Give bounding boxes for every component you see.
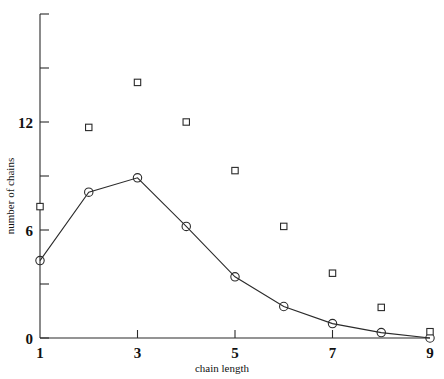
chart-figure: 0612 13579 chain length number of chains <box>0 0 444 379</box>
x-axis-title: chain length <box>195 362 250 374</box>
data-point-square <box>281 223 287 229</box>
x-axis-tick-label: 1 <box>36 345 44 361</box>
x-axis-tick-label: 3 <box>134 345 142 361</box>
series-polyline-group <box>40 178 430 338</box>
data-point-square <box>134 79 140 85</box>
data-point-square <box>378 304 384 310</box>
x-axis-tick-label: 5 <box>231 345 239 361</box>
data-point-square <box>183 119 189 125</box>
data-point-square <box>427 329 433 335</box>
y-axis-tick-label: 0 <box>26 331 34 347</box>
x-axis-tick-label: 9 <box>426 345 434 361</box>
chart-plot-area: 0612 13579 chain length number of chains <box>0 0 444 379</box>
series-marker-group <box>36 79 434 342</box>
y-axis-tick-label: 12 <box>18 115 33 131</box>
y-axis-tick-label: 6 <box>26 223 34 239</box>
x-axis-tick-labels: 13579 <box>36 345 434 361</box>
x-axis-ticks <box>138 330 333 338</box>
data-point-square <box>37 203 43 209</box>
y-axis-title: number of chains <box>4 158 16 234</box>
y-axis-tick-labels: 0612 <box>18 115 34 347</box>
x-axis-tick-label: 7 <box>329 345 337 361</box>
series-line-circles <box>40 178 430 338</box>
data-point-square <box>86 124 92 130</box>
data-point-square <box>329 270 335 276</box>
data-point-square <box>232 167 238 173</box>
y-axis-ticks <box>40 14 49 338</box>
